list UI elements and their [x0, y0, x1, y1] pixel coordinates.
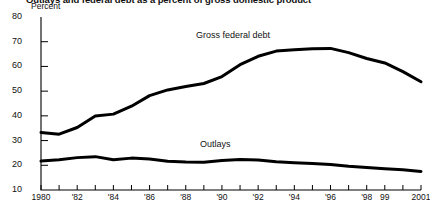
- series-label-outlays: Outlays: [200, 139, 231, 149]
- x-axis-ticks: [41, 185, 421, 190]
- axis-lines: [41, 17, 421, 190]
- series-lines: [41, 48, 421, 171]
- y-axis-ticks: [41, 42, 48, 166]
- series-label-gross-federal-debt: Gross federal debt: [196, 30, 270, 40]
